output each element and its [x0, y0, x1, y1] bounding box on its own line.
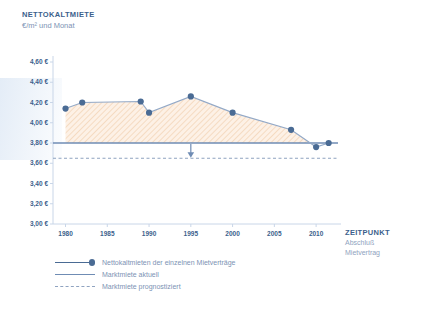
x-axis-title: ZEITPUNKT Abschluß Mietvertrag — [345, 227, 390, 258]
legend-item[interactable]: Marktmiete prognostiziert — [55, 280, 235, 292]
x-axis-title-main: ZEITPUNKT — [345, 227, 390, 238]
x-axis-title-line2: Mietvertrag — [345, 248, 390, 258]
y-axis-tick-label: 3,20 € — [14, 200, 48, 207]
legend-item[interactable]: Marktmiete aktuell — [55, 268, 235, 280]
legend-swatch-solid-line-icon — [55, 268, 95, 280]
y-axis-tick-label: 4,00 € — [14, 119, 48, 126]
x-axis-tick-label: 1980 — [50, 230, 82, 237]
legend-item[interactable]: Nettokaltmieten der einzelnen Mietverträ… — [55, 256, 235, 268]
y-axis-tick-label: 4,40 € — [14, 78, 48, 85]
x-axis-tick-label: 2000 — [217, 230, 249, 237]
x-axis-title-line1: Abschluß — [345, 238, 390, 248]
annotation-arrow — [188, 144, 195, 158]
series-area — [66, 96, 329, 147]
x-axis-tick-label: 1990 — [133, 230, 165, 237]
x-axis-tick-label: 1995 — [175, 230, 207, 237]
y-axis-tick-label: 3,40 € — [14, 180, 48, 187]
x-axis-tick-label: 1985 — [91, 230, 123, 237]
x-axis-tick-label: 2010 — [300, 230, 332, 237]
y-axis-tick-label: 3,60 € — [14, 159, 48, 166]
legend-swatch-line-with-dot-icon — [55, 256, 95, 268]
chart-container: NETTOKALTMIETE €/m² und Monat 4,60 €4,40… — [0, 0, 429, 312]
y-axis-tick-label: 3,80 € — [14, 139, 48, 146]
reference-lines — [53, 143, 338, 158]
x-axis-tick-label: 2005 — [258, 230, 290, 237]
chart-legend: Nettokaltmieten der einzelnen Mietverträ… — [55, 256, 235, 292]
y-axis-tick-label: 4,60 € — [14, 58, 48, 65]
y-axis-tick-label: 3,00 € — [14, 220, 48, 227]
legend-label: Marktmiete prognostiziert — [102, 283, 181, 290]
legend-label: Marktmiete aktuell — [102, 271, 159, 278]
legend-swatch-dashed-line-icon — [55, 280, 95, 292]
legend-label: Nettokaltmieten der einzelnen Mietverträ… — [102, 259, 235, 266]
y-axis-tick-label: 4,20 € — [14, 99, 48, 106]
